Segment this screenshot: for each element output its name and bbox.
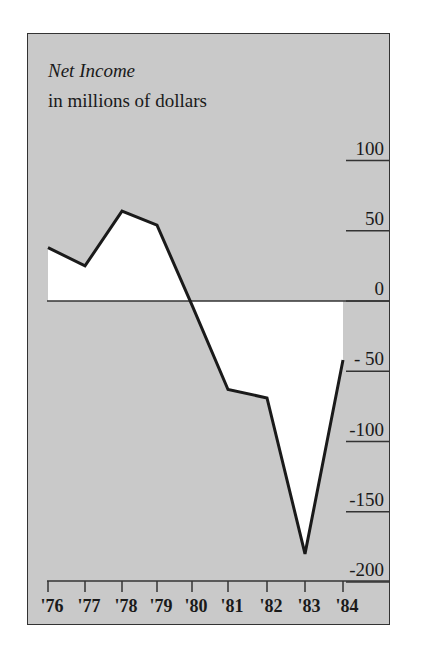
x-tick-label: '82 <box>259 596 282 616</box>
x-tick-label: '79 <box>149 596 172 616</box>
x-tick-label: '83 <box>297 596 320 616</box>
x-tick-label: '78 <box>114 596 137 616</box>
x-tick-label: '81 <box>220 596 243 616</box>
y-tick-label: -100 <box>349 419 384 440</box>
y-tick-label: 50 <box>365 208 384 229</box>
area-fill <box>48 211 343 554</box>
y-tick-label: -200 <box>349 559 384 580</box>
x-tick-label: '77 <box>77 596 100 616</box>
y-tick-label: 100 <box>356 138 385 159</box>
y-tick-label: 0 <box>375 278 385 299</box>
x-tick-label: '76 <box>40 596 63 616</box>
x-tick-label: '80 <box>184 596 207 616</box>
y-tick-label: -150 <box>349 489 384 510</box>
x-tick-label: '84 <box>335 596 358 616</box>
y-tick-label: - 50 <box>354 348 384 369</box>
line-chart: 100500- 50-100-150-200'76'77'78'79'80'81… <box>0 0 421 667</box>
